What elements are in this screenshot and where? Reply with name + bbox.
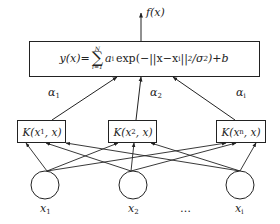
kernel-label-3: K(xn, x) (217, 121, 265, 143)
input-node-2 (119, 171, 147, 199)
formula-tail: )+b (208, 52, 229, 65)
formula-exp: exp(−||x−x (116, 52, 178, 65)
input-label-2: x2 (128, 202, 139, 216)
output-label: f(x) (146, 6, 165, 19)
weight-label-1: α1 (48, 86, 60, 100)
sum-lower: i=1 (92, 65, 103, 70)
diagram-canvas (0, 0, 280, 224)
kernel-label-2: K(x2, x) (109, 121, 157, 143)
input-connections (26, 143, 256, 171)
weight-arrow-2 (136, 77, 141, 120)
input-label-3: xi (235, 202, 243, 216)
weight-label-3: αi (236, 86, 246, 100)
input-node-1 (31, 171, 59, 199)
summation-formula: y(x)= N ∑ i=1 ai exp(−||x−xi||2/σ2)+b (29, 41, 259, 76)
sigma-icon: N ∑ i=1 (92, 47, 103, 69)
weight-arrow-3 (173, 77, 235, 120)
formula-term-sub: i (112, 55, 114, 63)
formula-lhs: y(x)= (59, 52, 89, 65)
input-label-1: x1 (40, 202, 51, 216)
kernel-label-1: K(x1, x) (18, 121, 66, 143)
weight-arrow-1 (52, 77, 117, 120)
input-node-3 (226, 171, 254, 199)
formula-div: /σ (192, 52, 203, 65)
weight-label-2: α2 (150, 86, 162, 100)
formula-norm: || (180, 52, 187, 65)
ellipsis: … (180, 202, 191, 215)
